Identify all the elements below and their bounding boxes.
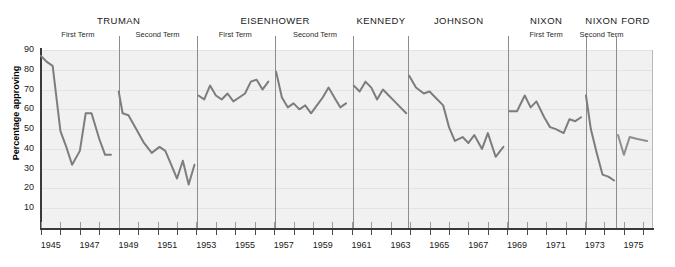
x-tick-1955	[235, 230, 236, 235]
x-tick-inner-1964	[410, 222, 411, 228]
x-tick-1947	[80, 230, 81, 235]
x-tick-1957	[274, 230, 275, 235]
x-tick-inner-1950	[138, 222, 139, 228]
header-divider-1963.9	[408, 36, 409, 50]
x-tick-inner-1951	[158, 222, 159, 228]
x-tick-1963	[391, 230, 392, 235]
x-tick-label-1955: 1955	[235, 240, 255, 250]
x-tick-1976	[643, 230, 644, 235]
x-tick-inner-1960	[332, 222, 333, 228]
x-tick-inner-1972	[566, 222, 567, 228]
x-tick-label-1971: 1971	[546, 240, 566, 250]
x-tick-label-1965: 1965	[429, 240, 449, 250]
x-tick-1961	[352, 230, 353, 235]
approval-line-series	[0, 0, 675, 267]
x-tick-1968	[488, 230, 489, 235]
x-tick-inner-1953	[196, 222, 197, 228]
x-tick-label-1975: 1975	[624, 240, 644, 250]
x-tick-label-1953: 1953	[196, 240, 216, 250]
x-tick-label-1949: 1949	[118, 240, 138, 250]
term-label-eisenhower-1: Second Term	[265, 30, 365, 39]
x-tick-1969	[507, 230, 508, 235]
series-truman-second-term	[119, 92, 195, 185]
x-tick-1974	[604, 230, 605, 235]
x-tick-inner-1966	[449, 222, 450, 228]
x-tick-inner-1975	[624, 222, 625, 228]
x-tick-inner-1946	[60, 222, 61, 228]
x-tick-inner-1971	[546, 222, 547, 228]
x-tick-1952	[177, 230, 178, 235]
x-tick-1960	[332, 230, 333, 235]
x-tick-label-1957: 1957	[274, 240, 294, 250]
x-tick-inner-1967	[468, 222, 469, 228]
x-tick-1973	[585, 230, 586, 235]
x-tick-1959	[313, 230, 314, 235]
x-tick-inner-1956	[255, 222, 256, 228]
president-label-eisenhower-1: EISENHOWER	[215, 15, 335, 26]
x-tick-inner-1952	[177, 222, 178, 228]
x-tick-inner-1959	[313, 222, 314, 228]
x-tick-1951	[158, 230, 159, 235]
x-tick-inner-1955	[235, 222, 236, 228]
x-tick-1949	[119, 230, 120, 235]
series-truman-first-term	[41, 56, 111, 165]
x-tick-1950	[138, 230, 139, 235]
x-tick-1954	[216, 230, 217, 235]
x-tick-1967	[468, 230, 469, 235]
x-tick-label-1963: 1963	[390, 240, 410, 250]
x-tick-inner-1949	[119, 222, 120, 228]
series-nixon-first-term	[509, 95, 581, 133]
x-tick-label-1973: 1973	[585, 240, 605, 250]
x-tick-inner-1969	[507, 222, 508, 228]
x-tick-inner-1962	[371, 222, 372, 228]
x-tick-1946	[60, 230, 61, 235]
x-tick-inner-1970	[527, 222, 528, 228]
series-johnson	[409, 76, 503, 157]
x-tick-inner-1965	[430, 222, 431, 228]
x-tick-inner-1968	[488, 222, 489, 228]
x-tick-label-1951: 1951	[157, 240, 177, 250]
x-tick-inner-1961	[352, 222, 353, 228]
x-tick-inner-1974	[604, 222, 605, 228]
x-tick-1970	[527, 230, 528, 235]
x-tick-1964	[410, 230, 411, 235]
series-nixon-second-term	[586, 95, 614, 180]
x-tick-1956	[255, 230, 256, 235]
x-tick-1972	[566, 230, 567, 235]
x-tick-inner-1976	[643, 222, 644, 228]
x-tick-1965	[430, 230, 431, 235]
x-tick-inner-1947	[80, 222, 81, 228]
x-tick-label-1945: 1945	[41, 240, 61, 250]
x-tick-label-1959: 1959	[313, 240, 333, 250]
series-kennedy	[354, 82, 406, 114]
x-tick-inner-1958	[294, 222, 295, 228]
president-label-ford-6: FORD	[576, 15, 675, 26]
x-tick-1948	[99, 230, 100, 235]
x-tick-1975	[624, 230, 625, 235]
x-tick-label-1969: 1969	[507, 240, 527, 250]
x-tick-label-1961: 1961	[352, 240, 372, 250]
x-tick-inner-1945	[41, 222, 42, 228]
series-eisenhower-second-term	[276, 72, 346, 114]
x-tick-1966	[449, 230, 450, 235]
x-tick-inner-1948	[99, 222, 100, 228]
x-tick-1971	[546, 230, 547, 235]
series-ford	[618, 135, 647, 155]
president-label-truman-0: TRUMAN	[59, 15, 179, 26]
x-tick-1953	[196, 230, 197, 235]
x-tick-inner-1954	[216, 222, 217, 228]
x-tick-label-1947: 1947	[80, 240, 100, 250]
term-label-nixon-0: Second Term	[552, 30, 652, 39]
x-tick-1945	[41, 230, 42, 235]
x-tick-inner-1973	[585, 222, 586, 228]
x-tick-inner-1963	[391, 222, 392, 228]
series-eisenhower-first-term	[198, 80, 268, 102]
presidential-approval-chart: 908070605040302010 Percentage approving …	[0, 0, 675, 267]
x-tick-inner-1957	[274, 222, 275, 228]
x-tick-1958	[294, 230, 295, 235]
x-tick-label-1967: 1967	[468, 240, 488, 250]
x-tick-1962	[371, 230, 372, 235]
